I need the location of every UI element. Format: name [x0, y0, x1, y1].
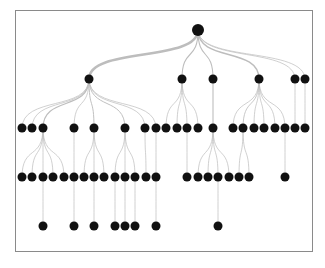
tree-edge	[89, 79, 156, 128]
tree-node	[131, 222, 140, 231]
tree-node	[194, 124, 203, 133]
tree-edge	[43, 128, 53, 177]
tree-edge	[208, 128, 213, 177]
tree-node	[194, 173, 203, 182]
tree-edge	[74, 79, 89, 128]
tree-edge	[259, 79, 285, 128]
tree-node	[183, 124, 192, 133]
tree-node	[39, 124, 48, 133]
tree-node	[28, 124, 37, 133]
tree-edge	[198, 30, 305, 79]
tree-edge	[145, 128, 146, 177]
tree-node	[255, 75, 264, 84]
tree-edge	[233, 79, 259, 128]
nodes-layer	[18, 24, 310, 231]
tree-node	[142, 173, 151, 182]
tree-edge	[89, 30, 198, 79]
tree-node	[49, 173, 58, 182]
tree-edge	[182, 79, 187, 128]
tree-edge	[213, 128, 218, 177]
tree-node	[131, 173, 140, 182]
tree-node	[39, 222, 48, 231]
tree-node	[80, 173, 89, 182]
tree-node	[90, 173, 99, 182]
tree-node	[301, 75, 310, 84]
tree-node	[70, 124, 79, 133]
tree-node	[214, 173, 223, 182]
tree-node	[229, 124, 238, 133]
tree-node	[18, 124, 27, 133]
tree-edge	[84, 128, 94, 177]
tree-edge	[89, 79, 125, 128]
tree-node	[214, 222, 223, 231]
tree-edge	[177, 79, 182, 128]
tree-node	[178, 75, 187, 84]
tree-node	[90, 124, 99, 133]
tree-node	[152, 124, 161, 133]
tree-edge	[89, 79, 145, 128]
tree-node	[162, 124, 171, 133]
tree-node	[235, 173, 244, 182]
tree-node	[152, 222, 161, 231]
tree-node	[301, 124, 310, 133]
tree-node	[152, 173, 161, 182]
tree-node	[260, 124, 269, 133]
tree-node	[70, 222, 79, 231]
tree-node	[90, 222, 99, 231]
tree-node	[111, 222, 120, 231]
tree-node	[111, 173, 120, 182]
tree-node	[85, 75, 94, 84]
tree-node	[271, 124, 280, 133]
tree-edge	[115, 128, 125, 177]
tree-node	[245, 173, 254, 182]
tree-node	[121, 173, 130, 182]
tree-edge	[43, 79, 89, 128]
tree-edge	[239, 128, 243, 177]
tree-node	[70, 173, 79, 182]
tree-node	[209, 75, 218, 84]
tree-edge	[43, 128, 64, 177]
tree-root-node	[192, 24, 204, 36]
tree-node	[173, 124, 182, 133]
tree-node	[18, 173, 27, 182]
tree-diagram	[0, 0, 325, 268]
tree-node	[281, 124, 290, 133]
tree-node	[141, 124, 150, 133]
tree-node	[183, 173, 192, 182]
tree-edge	[32, 79, 89, 128]
tree-node	[225, 173, 234, 182]
tree-node	[250, 124, 259, 133]
tree-edge	[22, 79, 89, 128]
tree-edge	[94, 128, 104, 177]
tree-node	[60, 173, 69, 182]
tree-node	[204, 173, 213, 182]
tree-node	[291, 75, 300, 84]
tree-node	[39, 173, 48, 182]
tree-node	[291, 124, 300, 133]
tree-node	[209, 124, 218, 133]
tree-edge	[32, 128, 43, 177]
tree-node	[281, 173, 290, 182]
tree-edge	[125, 128, 135, 177]
tree-node	[121, 222, 130, 231]
tree-node	[28, 173, 37, 182]
tree-edge	[243, 128, 249, 177]
tree-node	[121, 124, 130, 133]
tree-node	[100, 173, 109, 182]
tree-node	[239, 124, 248, 133]
